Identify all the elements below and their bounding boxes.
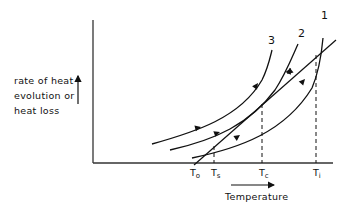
ts-label: Ts [210,167,221,180]
curve-1 [192,38,323,158]
tc-label: Tc [258,167,269,180]
ti-label: Ti [312,167,321,180]
curve-1-arrow-icon [299,77,307,85]
x-axis-label: Temperature [224,191,288,202]
curve-1-arrow-icon [233,133,241,141]
curve-1-label: 1 [321,9,328,22]
curve-2 [170,44,298,150]
heat-balance-diagram: 3 2 1 To Ts Tc Ti Temperature [0,0,351,211]
curve-3 [152,50,272,144]
curve-3-label: 3 [268,34,275,47]
t0-label: To [189,167,200,180]
curve-2-label: 2 [298,27,305,40]
